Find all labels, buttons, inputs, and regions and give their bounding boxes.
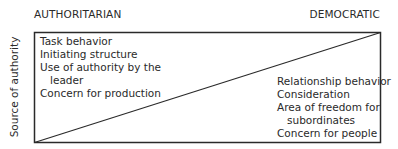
list-item: leader	[40, 74, 161, 87]
list-item: Relationship behavior	[277, 75, 391, 88]
list-item: Task behavior	[40, 35, 161, 48]
list-item: Consideration	[277, 88, 391, 101]
list-item: Concern for people	[277, 127, 391, 140]
list-item: subordinates	[277, 114, 391, 127]
democratic-list: Relationship behavior Consideration Area…	[277, 75, 391, 140]
list-item: Area of freedom for	[277, 101, 391, 114]
list-item: Concern for production	[40, 87, 161, 100]
list-item: Initiating structure	[40, 48, 161, 61]
list-item: Use of authority by the	[40, 61, 161, 74]
authoritarian-list: Task behavior Initiating structure Use o…	[40, 35, 161, 100]
